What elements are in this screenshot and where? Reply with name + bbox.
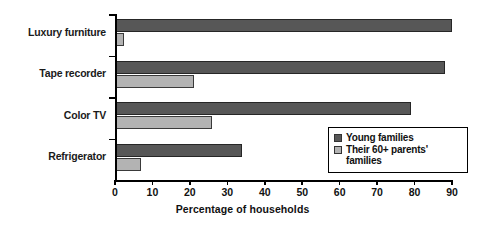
legend-item-parents-families: Their 60+ parents' families	[334, 144, 462, 166]
category-label-0: Luxury furniture	[6, 26, 106, 38]
bar-0-1	[115, 61, 445, 74]
x-axis-tick	[114, 180, 116, 185]
bar-0-2	[115, 102, 411, 115]
legend-swatch-icon-parents-families	[334, 146, 342, 154]
x-axis-tick-label: 60	[334, 186, 346, 198]
category-label-1: Tape recorder	[6, 67, 106, 79]
bar-0-3	[115, 144, 242, 157]
x-axis-tick	[264, 180, 266, 185]
category-axis-tick-top	[109, 14, 115, 16]
x-axis-tick-label: 50	[296, 186, 308, 198]
x-axis-tick	[451, 180, 453, 185]
legend-label-young-families: Young families	[346, 132, 414, 143]
x-axis-tick	[227, 180, 229, 185]
x-axis-tick-label: 40	[259, 186, 271, 198]
x-axis-tick-label: 80	[409, 186, 421, 198]
x-axis-tick	[339, 180, 341, 185]
value-axis-line	[115, 14, 117, 180]
legend-item-young-families: Young families	[334, 132, 462, 143]
legend-swatch-icon-young-families	[334, 134, 342, 142]
category-label-3: Refrigerator	[6, 150, 106, 162]
x-axis-tick	[189, 180, 191, 185]
x-axis-tick	[152, 180, 154, 185]
x-axis-tick-label: 90	[446, 186, 458, 198]
chart-legend: Young families Their 60+ parents' famili…	[328, 127, 468, 173]
x-axis-title: Percentage of households	[0, 203, 485, 215]
x-axis-tick-label: 10	[147, 186, 159, 198]
category-label-2: Color TV	[6, 109, 106, 121]
bar-1-2	[115, 116, 212, 129]
category-axis-tick	[109, 56, 115, 58]
x-axis-tick	[414, 180, 416, 185]
category-axis-tick	[109, 97, 115, 99]
x-axis-tick-label: 70	[371, 186, 383, 198]
x-axis-tick-label: 20	[184, 186, 196, 198]
bar-chart: Luxury furnitureTape recorderColor TVRef…	[0, 0, 485, 229]
bar-0-0	[115, 19, 452, 32]
category-axis: Luxury furnitureTape recorderColor TVRef…	[0, 0, 106, 229]
x-axis-tick-label: 30	[221, 186, 233, 198]
legend-label-parents-families: Their 60+ parents' families	[346, 144, 462, 166]
x-axis-tick	[301, 180, 303, 185]
bar-1-1	[115, 75, 194, 88]
x-axis-tick	[376, 180, 378, 185]
x-axis-tick-label: 0	[112, 186, 118, 198]
bar-1-3	[115, 158, 141, 171]
category-axis-line	[115, 180, 453, 182]
category-axis-tick	[109, 139, 115, 141]
